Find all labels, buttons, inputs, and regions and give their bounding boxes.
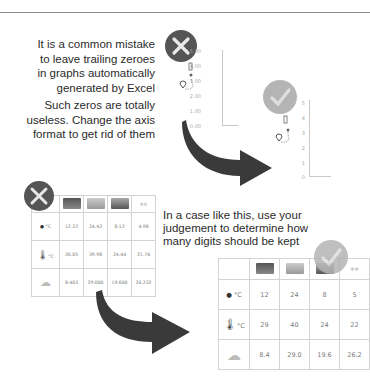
note-line: judgement to determine how bbox=[163, 222, 368, 235]
table-cell: 24.44 bbox=[108, 241, 132, 269]
table-cell: 8.403 bbox=[60, 269, 84, 297]
intro-line: in graphs automatically bbox=[20, 66, 155, 81]
table-cell: 40 bbox=[280, 310, 310, 340]
table-cell: 29 bbox=[250, 310, 280, 340]
curved-arrow-icon bbox=[180, 116, 280, 186]
intro-paragraph: It is a common mistake to leave trailing… bbox=[20, 37, 155, 95]
ytick-label: 5 bbox=[285, 100, 305, 106]
table-cell: 8.12 bbox=[108, 213, 132, 241]
x-circle-icon bbox=[24, 181, 54, 211]
y-axis bbox=[309, 100, 310, 177]
sunset-landscape-icon bbox=[108, 196, 132, 213]
x-circle-icon bbox=[165, 30, 197, 62]
cloud-rain-icon: ☁ bbox=[219, 340, 250, 370]
table-row: ● °C 12 24 8 5 bbox=[219, 280, 370, 310]
advice-paragraph: Such zeros are totally useless. Change t… bbox=[20, 98, 155, 142]
palm-beach-icon bbox=[84, 196, 108, 213]
intro-line: to leave trailing zeroes bbox=[20, 52, 155, 67]
table-cell: 39.98 bbox=[84, 241, 108, 269]
table-cell: 22 bbox=[340, 310, 370, 340]
note-line: In a case like this, use your bbox=[163, 209, 368, 222]
palm-beach-icon bbox=[280, 259, 310, 280]
intro-line: generated by Excel bbox=[20, 81, 155, 96]
ytick-label: 1 bbox=[285, 160, 305, 166]
table-cell: 21.76 bbox=[132, 241, 156, 269]
sun-temperature-icon: ● °C bbox=[32, 213, 60, 241]
x-axis bbox=[309, 176, 331, 177]
table-cell: 26.05 bbox=[60, 241, 84, 269]
table-cell: 5 bbox=[340, 280, 370, 310]
sun-temperature-icon: ● °C bbox=[219, 280, 250, 310]
thermometer-icon: 🌡°C bbox=[32, 241, 60, 269]
advice-line: Such zeros are totally bbox=[20, 98, 155, 113]
ytick-label: 2.00 bbox=[181, 93, 201, 99]
table-row: ☁ 8.4 29.0 19.6 26.2 bbox=[219, 340, 370, 370]
y-axis bbox=[222, 50, 223, 126]
table-cell: 8 bbox=[310, 280, 340, 310]
check-circle-icon bbox=[263, 80, 297, 114]
table-row: 🌡°C 29 40 24 22 bbox=[219, 310, 370, 340]
table-right: ✲✲ ● °C 12 24 8 5 🌡°C 29 40 24 22 ☁ 8.4 … bbox=[218, 258, 370, 370]
check-circle-icon bbox=[314, 240, 348, 274]
ytick-label: 1.00 bbox=[181, 108, 201, 114]
cloud-rain-icon: ☁ bbox=[32, 269, 60, 297]
snowflake-icon: ✲✲ bbox=[132, 196, 156, 213]
thermometer-icon: 🌡°C bbox=[219, 310, 250, 340]
ytick-label: 5.00 bbox=[181, 48, 201, 54]
table-cell: 24 bbox=[280, 280, 310, 310]
table-cell: 19.6 bbox=[310, 340, 340, 370]
table-row: ● °C 12.22 24.42 8.12 4.98 bbox=[32, 213, 156, 241]
ytick-label: 0 bbox=[285, 174, 305, 180]
top-divider bbox=[0, 12, 370, 13]
table-cell: 12.22 bbox=[60, 213, 84, 241]
table-cell: 8.4 bbox=[250, 340, 280, 370]
map-route-icon bbox=[177, 62, 199, 92]
table-cell: 24 bbox=[310, 310, 340, 340]
curved-arrow-icon bbox=[96, 288, 196, 358]
table-cell: 26.2 bbox=[340, 340, 370, 370]
advice-line: useless. Change the axis bbox=[20, 113, 155, 128]
intro-line: It is a common mistake bbox=[20, 37, 155, 52]
storm-tree-icon bbox=[60, 196, 84, 213]
table-cell: 24.42 bbox=[84, 213, 108, 241]
ytick-label: 2 bbox=[285, 145, 305, 151]
table-cell: 12 bbox=[250, 280, 280, 310]
table-cell: 29.0 bbox=[280, 340, 310, 370]
storm-tree-icon bbox=[250, 259, 280, 280]
advice-line: format to get rid of them bbox=[20, 127, 155, 142]
table-cell: 4.98 bbox=[132, 213, 156, 241]
table-row: 🌡°C 26.05 39.98 24.44 21.76 bbox=[32, 241, 156, 269]
